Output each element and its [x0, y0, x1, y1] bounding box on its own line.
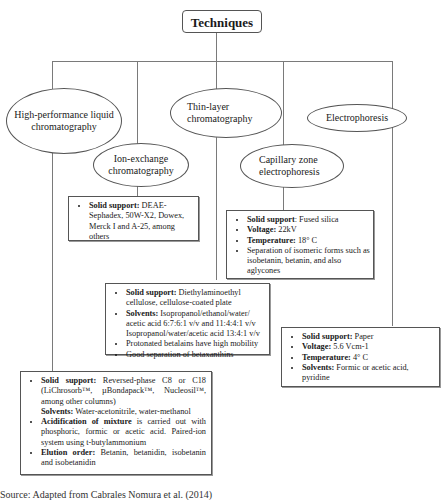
detail-item: Solid support: Diethylaminoethyl cellulo… [126, 288, 266, 309]
detail-item: Separation of isomeric forms such as iso… [247, 246, 371, 277]
node-capillary: Capillary zone electrophoresis [240, 144, 344, 188]
connector-capillary [283, 61, 284, 211]
node-tlc: Thin-layer chromatography [170, 88, 282, 138]
detail-item: Voltage: 22kV [247, 225, 371, 235]
detail-item: Protonated betalains have high mobility [126, 339, 266, 349]
detail-ion-exchange: Solid support: DEAE-Sephadex, 50W-X2, Do… [68, 196, 199, 241]
figure-caption: Source: Adapted from Cabrales Nomura et … [0, 489, 212, 500]
detail-item: Solid support: Fused silica [247, 215, 371, 225]
connector-root-down [216, 33, 217, 61]
detail-item: Elution order: Betanin, betanidin, isobe… [41, 448, 206, 469]
connector-electrophoresis [392, 61, 393, 326]
detail-tlc: Solid support: Diethylaminoethyl cellulo… [105, 283, 270, 355]
node-capillary-label: Capillary zone electrophoresis [259, 154, 325, 178]
detail-item: Temperature: 4° C [302, 353, 437, 363]
node-electrophoresis: Electrophoresis [307, 104, 407, 132]
detail-item: Solid support: Paper [302, 332, 437, 342]
root-label: Techniques [191, 15, 253, 30]
techniques-root-node: Techniques [182, 10, 262, 33]
node-ion-exchange: Ion-exchange chromatography [93, 143, 189, 187]
detail-item: Voltage: 5.6 Vcm-1 [302, 342, 437, 352]
detail-item: Acidification of mixture is carried out … [41, 417, 206, 448]
connector-horizontal-bus [52, 61, 393, 62]
detail-electrophoresis: Solid support: Paper Voltage: 5.6 Vcm-1 … [281, 327, 440, 387]
node-hplc-label: High-performance liquid chromatography [13, 109, 115, 133]
detail-capillary: Solid support: Fused silica Voltage: 22k… [226, 210, 374, 279]
node-hplc: High-performance liquid chromatography [6, 88, 122, 154]
node-electrophoresis-label: Electrophoresis [326, 112, 388, 124]
detail-item: Solvents: Isopropanol/ethanol/water/ ace… [126, 309, 266, 340]
detail-item: Solvents: Formic or acetic acid, pyridin… [302, 363, 437, 384]
detail-item: Temperature: 18° C [247, 236, 371, 246]
detail-item: Solid support: Reversed-phase C8 or C18 … [41, 376, 206, 407]
detail-item: Solid support: DEAE-Sephadex, 50W-X2, Do… [89, 201, 194, 242]
detail-item: Good separation of betaxanthins [126, 350, 266, 360]
node-ion-exchange-label: Ion-exchange chromatography [108, 153, 174, 177]
detail-hplc: Solid support: Reversed-phase C8 or C18 … [20, 371, 212, 475]
node-tlc-label: Thin-layer chromatography [187, 101, 265, 125]
detail-item: Solvents: Water-acetonitrile, water-meth… [41, 407, 206, 417]
